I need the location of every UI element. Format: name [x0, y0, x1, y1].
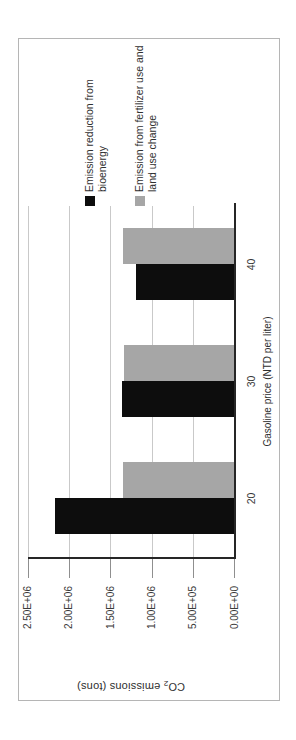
- y-axis-title: CO2 emissions (tons): [77, 679, 185, 693]
- y-tick-label: 2.00E+06: [62, 586, 75, 650]
- legend-label: Emission from fertilizer use and land us…: [133, 42, 159, 192]
- category-labels: 20 30 40: [245, 206, 257, 557]
- bar-group-20: [28, 440, 234, 557]
- bar-series1-40: [136, 265, 234, 301]
- y-tick-mark: [110, 559, 111, 578]
- chart-canvas: CO2 emissions (tons) 2.50E+06 2.00E+06 1…: [18, 38, 280, 701]
- y-tick-label: 1.00E+06: [145, 586, 158, 650]
- y-tick-label: 0.00E+00: [228, 586, 241, 650]
- bar-group-40: [28, 206, 234, 323]
- bar-series2-30: [124, 346, 234, 382]
- y-tick-mark: [152, 559, 153, 578]
- plot-area: [28, 206, 234, 557]
- y-tick-mark: [28, 559, 29, 578]
- y-axis-title-column: CO2 emissions (tons): [28, 674, 234, 698]
- y-tick-label: 5.00E+05: [186, 586, 199, 650]
- category-axis-line: [234, 203, 236, 559]
- legend: Emission reduction from bioenergy Emissi…: [83, 42, 183, 206]
- y-tick-mark: [69, 559, 70, 578]
- bar-series1-20: [55, 499, 234, 535]
- legend-label: Emission reduction from bioenergy: [83, 42, 109, 192]
- y-tick-mark: [193, 559, 194, 578]
- legend-entry-fertilizer: Emission from fertilizer use and land us…: [133, 42, 159, 206]
- y-tick-label: 1.50E+06: [104, 586, 117, 650]
- y-tick-label: 2.50E+06: [21, 586, 34, 650]
- legend-entry-bioenergy: Emission reduction from bioenergy: [83, 42, 109, 206]
- x-axis-title: Gasoline price (NTD per liter): [262, 206, 273, 557]
- bar-series1-30: [122, 382, 234, 418]
- category-label-20: 20: [245, 440, 257, 557]
- category-label-40: 40: [245, 206, 257, 323]
- legend-marker-black-icon: [85, 196, 95, 206]
- bar-series2-40: [123, 229, 234, 265]
- bar-group-30: [28, 323, 234, 440]
- bar-series2-20: [123, 463, 234, 499]
- legend-marker-gray-icon: [135, 196, 145, 206]
- value-axis-line: [28, 557, 236, 559]
- y-tick-mark: [234, 559, 235, 578]
- co2-subscript: 2: [163, 679, 168, 688]
- category-label-30: 30: [245, 323, 257, 440]
